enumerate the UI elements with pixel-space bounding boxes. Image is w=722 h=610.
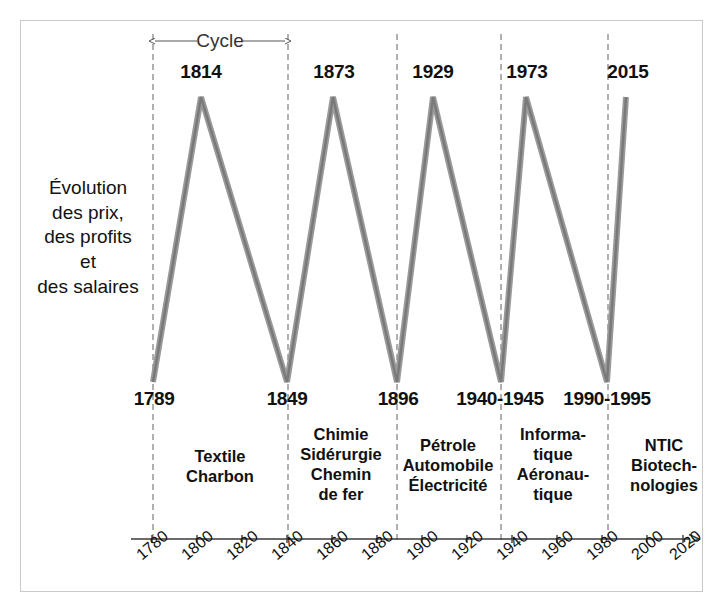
chart-frame: Cycle 1814 1873 1929 1973 2015 1789 1849… <box>20 20 703 592</box>
x-axis <box>21 21 704 593</box>
chart-canvas: Cycle 1814 1873 1929 1973 2015 1789 1849… <box>0 0 722 610</box>
